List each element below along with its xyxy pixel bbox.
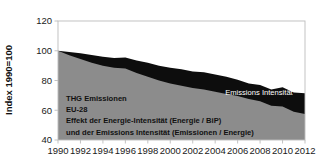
series-label: Emissions Intensität <box>225 88 293 97</box>
x-tick-label: 2002 <box>182 145 203 156</box>
annotation-line: Effekt der Energie-Intensität (Energie /… <box>66 116 222 125</box>
y-tick-label: 80 <box>41 75 52 86</box>
y-axis-title: Index 1990=100 <box>3 45 14 115</box>
x-tick-label: 1998 <box>137 145 158 156</box>
y-tick-label: 40 <box>41 134 52 145</box>
y-tick-label: 60 <box>41 105 52 116</box>
total-label-line1: Gesamt- <box>252 113 282 122</box>
y-tick-label: 100 <box>36 45 52 56</box>
x-tick-label: 2004 <box>205 145 226 156</box>
x-tick-label: 1990 <box>47 145 68 156</box>
x-tick-label: 2012 <box>294 145 315 156</box>
x-tick-label: 2010 <box>272 145 293 156</box>
chart-container: 406080100120 199019921994199619982000200… <box>0 0 321 168</box>
x-tick-label: 1992 <box>70 145 91 156</box>
annotation-line: EU-28 <box>66 105 88 114</box>
y-tick-label: 120 <box>36 15 52 26</box>
x-axis: 1990199219941996199820002002200420062008… <box>47 140 315 156</box>
x-tick-label: 2008 <box>250 145 271 156</box>
y-axis: 406080100120 <box>36 15 58 145</box>
x-tick-label: 2000 <box>160 145 181 156</box>
x-tick-label: 1994 <box>92 145 113 156</box>
total-label-line2: Intensität <box>251 123 283 132</box>
x-tick-label: 1996 <box>115 145 136 156</box>
emissions-intensity-area-chart: 406080100120 199019921994199619982000200… <box>0 0 321 168</box>
annotation-line: und der Emissions Intensität (Emissionen… <box>66 128 254 137</box>
annotation-line: THG Emissionen <box>66 94 127 103</box>
x-tick-label: 2006 <box>227 145 248 156</box>
series-label: Energie-Intensität <box>226 60 286 69</box>
